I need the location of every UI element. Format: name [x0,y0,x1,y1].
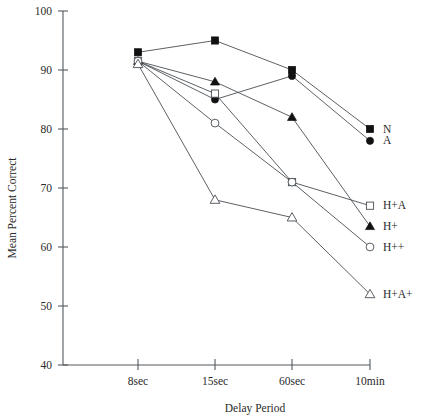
x-axis-tick-labels: 8sec15sec60sec10min [128,375,385,387]
series-n [134,37,373,133]
legend-label-n: N [383,123,392,135]
y-tick-label: 40 [41,359,53,371]
series-line [138,61,370,206]
data-point-marker [366,137,373,144]
axes-group [58,11,370,370]
data-point-marker [288,113,297,121]
y-tick-label: 100 [35,5,53,17]
data-point-marker [210,195,220,203]
data-point-marker [366,243,374,251]
data-point-marker [211,37,218,44]
data-series-layer [133,37,375,298]
y-axis-title: Mean Percent Correct [6,157,18,259]
series-hplus [134,57,375,230]
legend-label-hplusaplus: H+A+ [383,288,413,300]
data-point-marker [288,178,296,186]
x-tick-label: 60sec [279,375,305,387]
series-line [138,61,370,247]
series-line [138,61,370,141]
series-line [138,41,370,130]
data-point-marker [211,119,219,127]
x-tick-label: 10min [355,375,385,387]
series-line [138,64,370,294]
data-point-marker [366,125,373,132]
data-point-marker [211,90,218,97]
series-line [138,61,370,226]
legend-label-a: A [383,134,392,146]
data-point-marker [366,202,373,209]
legend-label-hplusplus: H++ [383,241,404,253]
y-tick-label: 50 [41,300,53,312]
legend-label-hplusa: H+A [383,199,407,211]
legend-layer: NAH+AH+H++H+A+ [383,123,413,300]
chart-figure: 405060708090100 8sec15sec60sec10min Mean… [0,0,424,417]
x-axis-title: Delay Period [225,402,286,415]
y-tick-label: 80 [41,123,53,135]
data-point-marker [366,222,375,230]
x-tick-label: 15sec [202,375,228,387]
legend-label-hplus: H+ [383,220,398,232]
data-point-marker [134,49,141,56]
x-tick-label: 8sec [128,375,148,387]
line-chart-canvas: 405060708090100 8sec15sec60sec10min Mean… [0,0,424,417]
series-hplusplus [134,57,374,251]
data-point-marker [288,72,295,79]
y-tick-label: 60 [41,241,53,253]
y-tick-label: 90 [41,64,53,76]
y-tick-label: 70 [41,182,53,194]
y-axis-tick-labels: 405060708090100 [35,5,53,371]
series-a [134,58,373,145]
series-hplusa [134,58,373,210]
series-hplusaplus [133,59,375,297]
